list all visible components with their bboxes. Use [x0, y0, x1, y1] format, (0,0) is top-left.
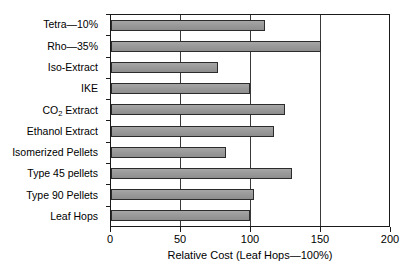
bar-chart: Tetra—10% Rho—35% Iso-Extract IKE CO2 Ex… — [0, 0, 408, 274]
category-label-co2-extract: CO2 Extract — [0, 99, 104, 120]
x-tick-label-0: 0 — [107, 234, 113, 245]
plot-area — [110, 14, 390, 227]
bar-slot — [111, 78, 389, 99]
category-axis: Tetra—10% Rho—35% Iso-Extract IKE CO2 Ex… — [0, 14, 104, 227]
category-label-type-90-pellets: Type 90 Pellets — [0, 184, 104, 205]
x-tick-label-50: 50 — [174, 234, 186, 245]
x-tick-mark-200 — [390, 227, 391, 232]
bar — [111, 189, 254, 200]
bar — [111, 126, 274, 137]
category-label-isomerized-pellets: Isomerized Pellets — [0, 142, 104, 163]
category-label-leaf-hops: Leaf Hops — [0, 206, 104, 227]
bar-slot — [111, 15, 389, 36]
bar-slot — [111, 99, 389, 120]
category-label-ike: IKE — [0, 78, 104, 99]
bar — [111, 83, 250, 94]
category-label-co2-text: CO2 Extract — [42, 105, 98, 116]
x-tick-mark-50 — [180, 227, 181, 232]
bar-slot — [111, 163, 389, 184]
bar — [111, 62, 218, 73]
category-label-iso-extract: Iso-Extract — [0, 57, 104, 78]
x-tick-mark-150 — [320, 227, 321, 232]
bars-layer — [111, 15, 389, 226]
bar — [111, 41, 321, 52]
bar — [111, 210, 250, 221]
bar-slot — [111, 57, 389, 78]
bar — [111, 147, 226, 158]
x-tick-label-200: 200 — [381, 234, 399, 245]
x-tick-label-150: 150 — [311, 234, 329, 245]
category-label-type-45-pellets: Type 45 pellets — [0, 163, 104, 184]
x-tick-mark-0 — [110, 227, 111, 232]
category-label-rho: Rho—35% — [0, 35, 104, 56]
bar-slot — [111, 184, 389, 205]
x-tick-mark-100 — [250, 227, 251, 232]
category-label-ethanol-extract: Ethanol Extract — [0, 120, 104, 141]
bar-slot — [111, 36, 389, 57]
x-axis-title: Relative Cost (Leaf Hops—100%) — [110, 250, 390, 261]
x-tick-label-100: 100 — [241, 234, 259, 245]
bar-slot — [111, 142, 389, 163]
bar — [111, 20, 265, 31]
bar-slot — [111, 205, 389, 226]
bar — [111, 168, 292, 179]
bar-slot — [111, 120, 389, 141]
bar — [111, 104, 285, 115]
category-label-tetra: Tetra—10% — [0, 14, 104, 35]
